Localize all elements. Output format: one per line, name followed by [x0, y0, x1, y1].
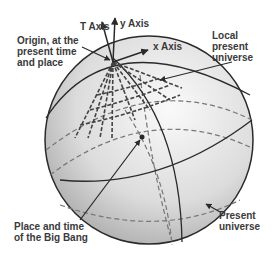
- big-bang-point: [140, 135, 145, 140]
- y-axis-label: y Axis: [120, 18, 149, 29]
- present-universe-label: Present universe: [219, 210, 260, 232]
- local-present-universe-label: Local present universe: [212, 30, 253, 63]
- x-axis-label: x Axis: [153, 41, 182, 52]
- t-axis-label: T Axis: [80, 21, 110, 32]
- big-bang-label: Place and time of the Big Bang: [14, 221, 88, 243]
- origin-label: Origin, at the present time and place: [17, 35, 79, 68]
